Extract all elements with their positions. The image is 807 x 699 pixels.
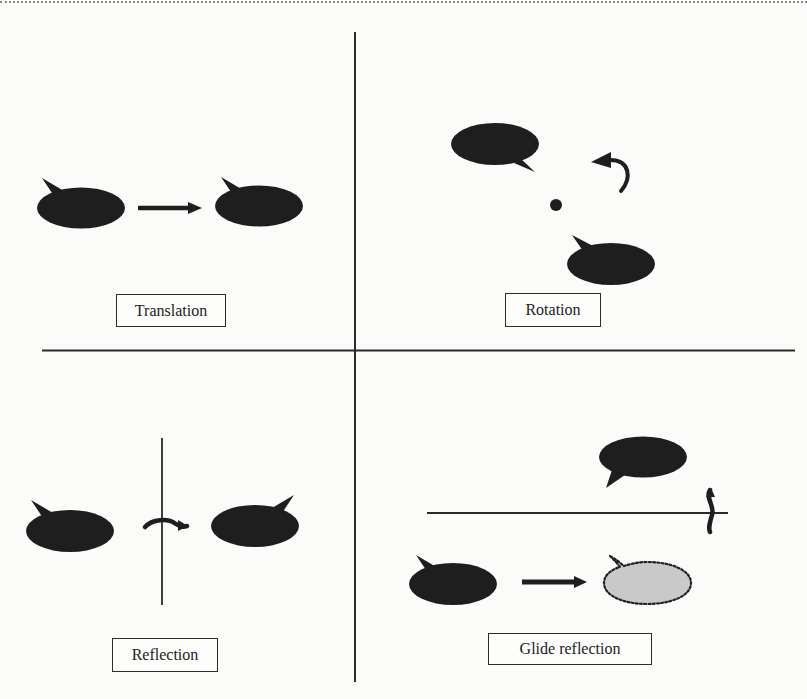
reflection-original-bubble (26, 500, 114, 552)
rotation-original-bubble (451, 123, 539, 172)
rotation-center-point-icon (550, 199, 562, 211)
transformations-diagram (0, 0, 807, 699)
translation-original-bubble (37, 178, 125, 229)
translation-arrow-icon (138, 202, 202, 214)
rotation-image-bubble (567, 235, 655, 285)
reflection-image-bubble (211, 495, 299, 547)
glide-reflected-bubble (599, 437, 687, 489)
translation-image-bubble (215, 177, 303, 227)
glide-original-bubble (409, 555, 497, 605)
reflection-label: Reflection (112, 638, 218, 672)
glide-reflection-label: Glide reflection (488, 633, 652, 665)
curved-rotate-arrow-icon (591, 152, 628, 191)
translation-label: Translation (116, 294, 226, 327)
rotation-label: Rotation (505, 293, 601, 327)
reflection-flip-arrow-icon (145, 520, 188, 531)
glide-flip-arrow-icon (706, 488, 715, 532)
glide-image-dotted-bubble (604, 556, 691, 604)
glide-arrow-icon (522, 576, 587, 588)
